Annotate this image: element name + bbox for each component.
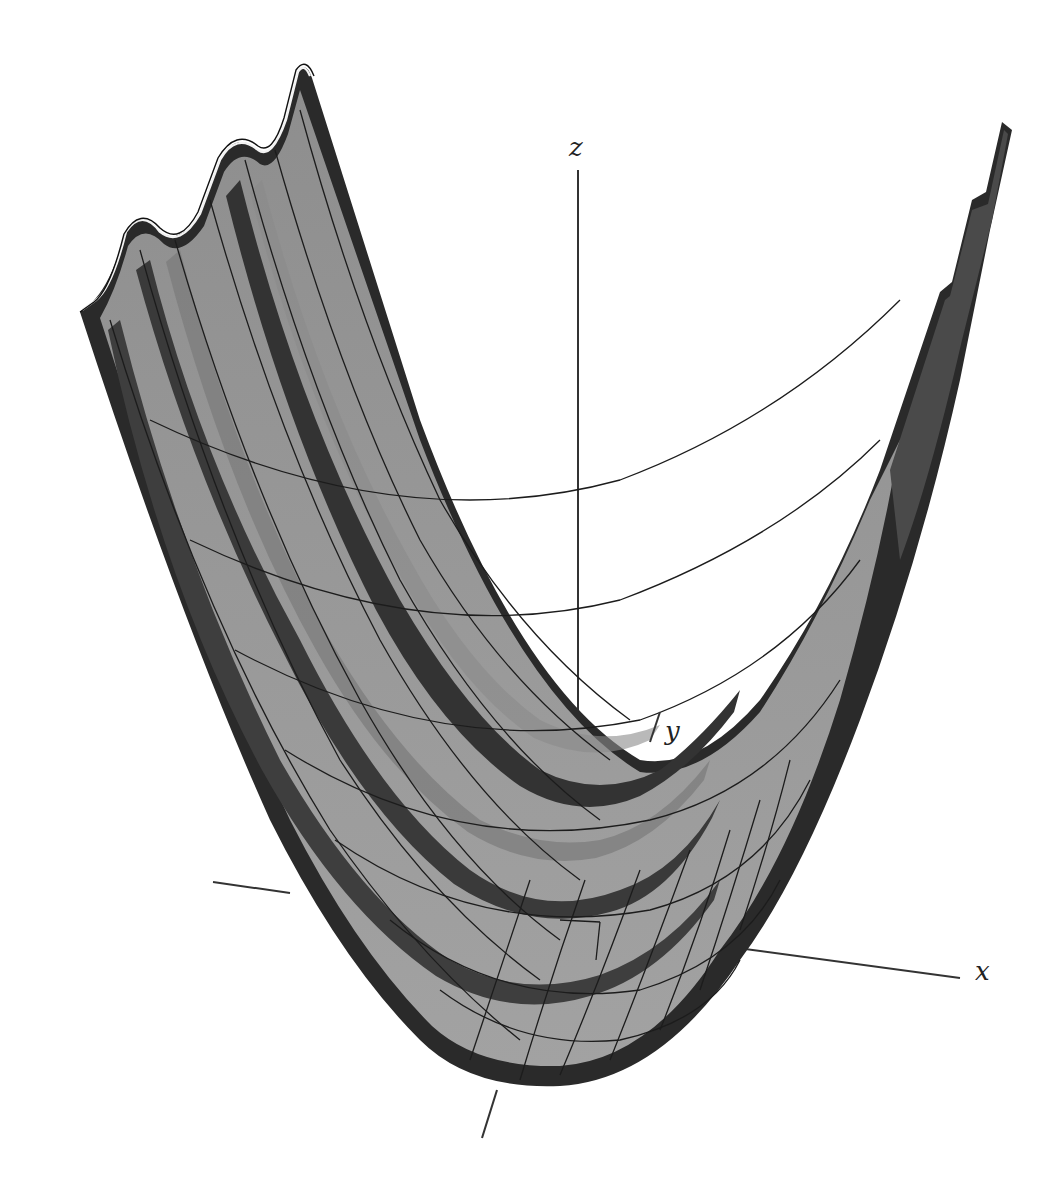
axis-label-y: y <box>665 718 680 744</box>
surface-plot-figure <box>0 0 1058 1204</box>
right-rim <box>890 130 1008 560</box>
axis-label-z: z <box>569 134 583 160</box>
surface <box>80 64 1012 1086</box>
axis-label-x: x <box>975 958 990 984</box>
x-axis-line-left <box>213 882 290 893</box>
y-axis-line-bottom <box>482 1090 497 1138</box>
